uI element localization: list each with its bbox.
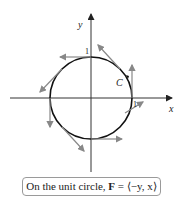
curve-label: C [116,77,123,88]
caption-prefix: On the unit circle, [26,180,108,192]
x-tick-1: 1 [133,100,137,109]
y-axis-label: y [77,19,83,30]
caption-suffix: = ⟨−y, x⟩ [115,180,157,192]
figure-caption: On the unit circle, F = ⟨−y, x⟩ [22,177,161,196]
x-axis-label: x [168,103,174,114]
vector-field-diagram: y x 1 1 C [0,0,188,197]
y-tick-1: 1 [85,47,89,56]
